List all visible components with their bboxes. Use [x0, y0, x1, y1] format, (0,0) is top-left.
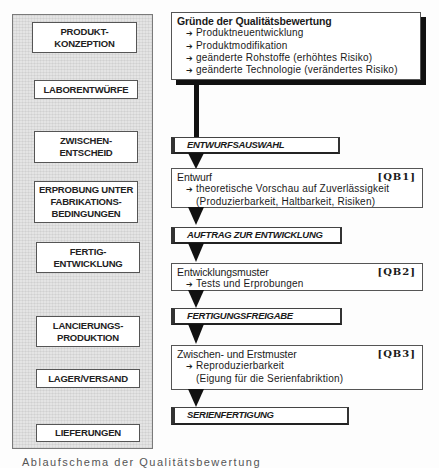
phase-label: FERTIG- ENTWICKLUNG: [53, 246, 122, 270]
phase-label: LIEFERUNGEN: [55, 427, 121, 439]
milestone-auftrag-entwicklung: AUFTRAG ZUR ENTWICKLUNG: [171, 227, 342, 244]
phase-label: ZWISCHEN- ENTSCHEID: [59, 135, 112, 159]
evaluation-qb2: Entwicklungsmuster [QB2] ➔Tests und Erpr…: [171, 263, 423, 291]
phase-lager-versand: LAGER/VERSAND: [36, 369, 140, 388]
phase-zwischenentscheid: ZWISCHEN- ENTSCHEID: [34, 131, 138, 163]
reason-item: ➔geänderte Technologie (verändertes Risi…: [177, 64, 420, 76]
arrow-right-icon: ➔: [186, 53, 196, 64]
reason-item: ➔geänderte Rohstoffe (erhöhtes Risiko): [177, 52, 420, 64]
connector-bar: [194, 78, 199, 138]
reason-item: ➔Produktneuentwicklung: [177, 27, 420, 39]
figure-caption: Ablaufschema der Qualitätsbewertung: [22, 456, 261, 468]
reason-item: ➔Produktmodifikation: [177, 40, 420, 52]
phase-label: PRODUKT- KONZEPTION: [54, 26, 114, 50]
qb-tag: [QB1]: [377, 171, 416, 182]
flow-arrow-down-icon: [188, 324, 204, 344]
reasons-box: Gründe der Qualitätsbewertung ➔Produktne…: [171, 12, 421, 80]
arrow-right-icon: ➔: [186, 28, 196, 39]
arrow-right-icon: ➔: [186, 361, 196, 372]
qb-tag: [QB3]: [377, 348, 416, 359]
phase-label: ERPROBUNG UNTER FABRIKATIONS- BEDINGUNGE…: [39, 184, 133, 220]
phase-label: LANCIERUNGS- PRODUKTION: [53, 320, 123, 344]
arrow-right-icon: ➔: [186, 65, 196, 76]
evaluation-item: ➔theoretische Vorschau auf Zuverlässigke…: [177, 183, 422, 195]
qb-tag: [QB2]: [377, 266, 416, 277]
evaluation-qb3: Zwischen- und Erstmuster [QB3] ➔Reproduz…: [171, 345, 423, 390]
flow-arrow-down-icon: [188, 243, 204, 262]
evaluation-qb1: Entwurf [QB1] ➔theoretische Vorschau auf…: [171, 168, 423, 208]
milestone-serienfertigung: SERIENFERTIGUNG: [171, 407, 349, 425]
evaluation-item: ➔Tests und Erprobungen: [177, 278, 422, 290]
phase-lancierungsproduktion: LANCIERUNGS- PRODUKTION: [36, 316, 140, 347]
flow-arrow-down-icon: [188, 153, 204, 169]
evaluation-item: ➔Reproduzierbarkeit: [177, 360, 422, 372]
phase-laborentwuerfe: LABORENTWÜRFE: [34, 80, 138, 99]
flow-arrow-down-icon: [188, 389, 204, 407]
phase-fertigentwicklung: FERTIG- ENTWICKLUNG: [36, 242, 140, 273]
evaluation-note: (Produzierbarkeit, Haltbarkeit, Risiken): [177, 196, 422, 207]
reasons-title: Gründe der Qualitätsbewertung: [177, 16, 420, 27]
flow-arrow-down-icon: [188, 290, 204, 308]
milestone-entwurfsauswahl: ENTWURFSAUSWAHL: [171, 137, 340, 154]
arrow-right-icon: ➔: [186, 41, 196, 52]
flow-arrow-down-icon: [188, 207, 204, 225]
phase-lieferungen: LIEFERUNGEN: [36, 424, 140, 442]
arrow-right-icon: ➔: [186, 184, 196, 195]
evaluation-note: (Eigung für die Serienfabriktion): [177, 373, 422, 384]
phase-produktkonzeption: PRODUKT- KONZEPTION: [32, 22, 137, 53]
arrow-right-icon: ➔: [186, 279, 196, 290]
phase-erprobung: ERPROBUNG UNTER FABRIKATIONS- BEDINGUNGE…: [34, 181, 138, 223]
milestone-fertigungsfreigabe: FERTIGUNGSFREIGABE: [171, 308, 342, 325]
phase-label: LAGER/VERSAND: [48, 373, 128, 385]
phase-label: LABORENTWÜRFE: [43, 84, 128, 96]
